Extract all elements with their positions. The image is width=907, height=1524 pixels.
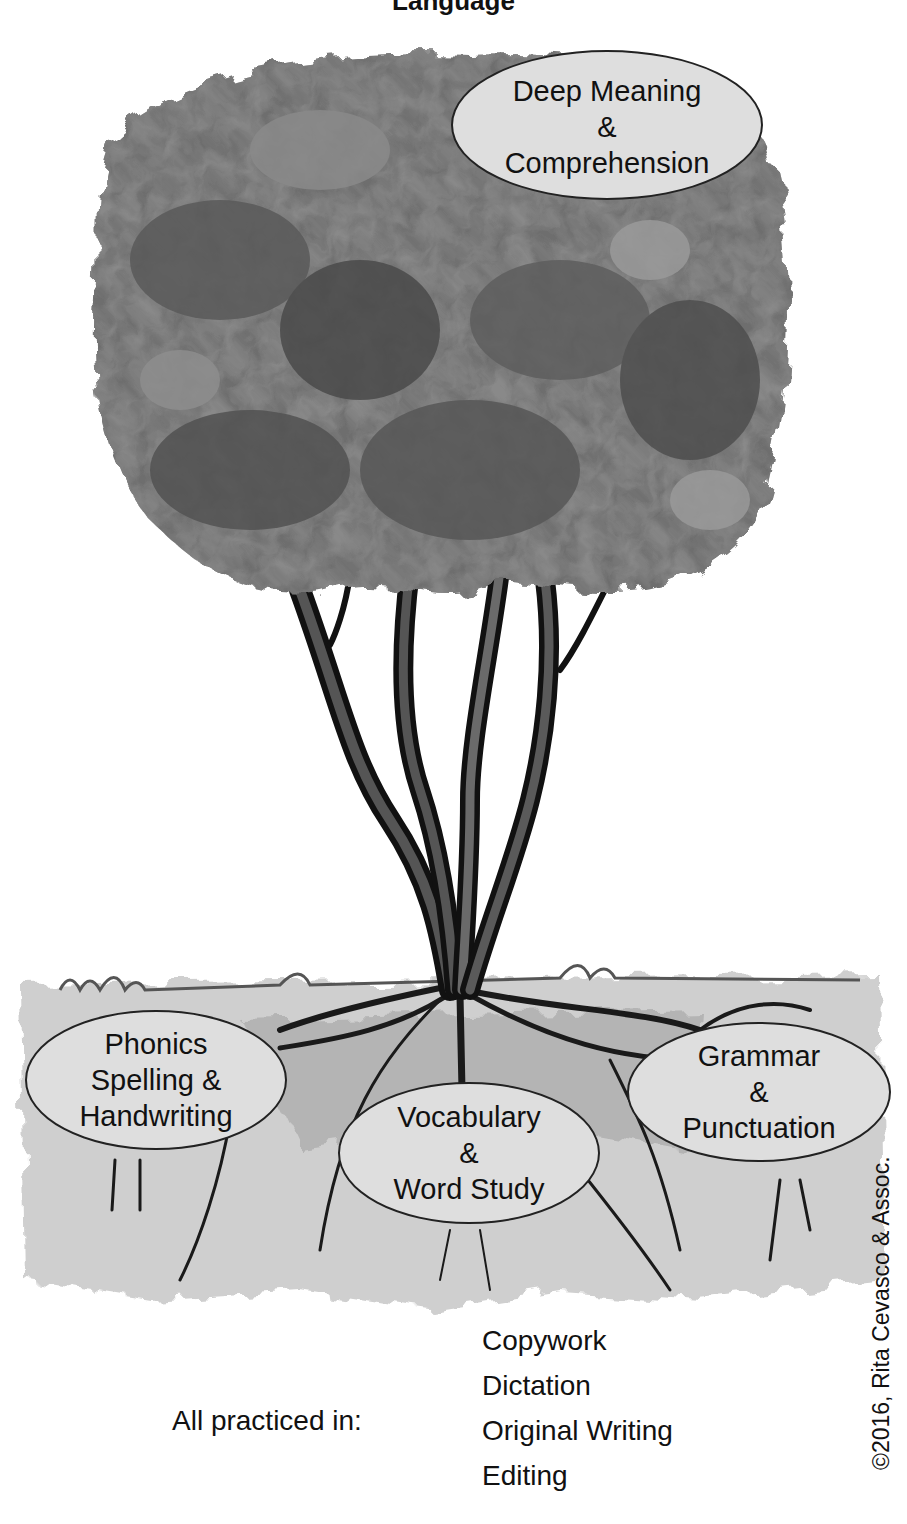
copyright-notice: ©2016, Rita Cevasco & Assoc. — [868, 1156, 895, 1470]
canopy-label-line-3: Comprehension — [505, 145, 710, 181]
canopy-label-line-2: & — [597, 109, 616, 145]
phonics-label-line-3: Handwriting — [79, 1098, 232, 1134]
practice-label: All practiced in: — [172, 1405, 362, 1437]
canopy-label-line-1: Deep Meaning — [513, 73, 702, 109]
practice-item-editing: Editing — [482, 1453, 673, 1498]
practice-list: Copywork Dictation Original Writing Edit… — [482, 1318, 673, 1498]
phonics-label-line-2: Spelling & — [91, 1062, 222, 1098]
vocabulary-label-line-2: & — [459, 1135, 478, 1171]
grammar-label-line-1: Grammar — [698, 1038, 820, 1074]
canopy-bubble-deep-meaning: Deep Meaning & Comprehension — [451, 50, 763, 200]
vocabulary-label-line-1: Vocabulary — [397, 1099, 541, 1135]
vocabulary-label-line-3: Word Study — [394, 1171, 545, 1207]
practice-item-copywork: Copywork — [482, 1318, 673, 1363]
root-bubble-phonics: Phonics Spelling & Handwriting — [25, 1010, 287, 1150]
phonics-label-line-1: Phonics — [104, 1026, 207, 1062]
root-bubble-vocabulary: Vocabulary & Word Study — [338, 1082, 600, 1224]
tree-illustration — [0, 0, 907, 1524]
grammar-label-line-2: & — [749, 1074, 768, 1110]
practice-item-original-writing: Original Writing — [482, 1408, 673, 1453]
practice-item-dictation: Dictation — [482, 1363, 673, 1408]
trunks — [300, 570, 610, 990]
root-bubble-grammar: Grammar & Punctuation — [627, 1022, 891, 1162]
grammar-label-line-3: Punctuation — [682, 1110, 835, 1146]
